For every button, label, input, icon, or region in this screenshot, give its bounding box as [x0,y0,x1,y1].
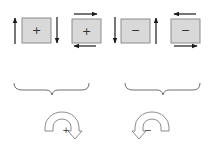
brace-negative-icon [125,83,200,95]
minus-sign-label: − [144,125,152,135]
minus-sign-label: − [181,24,190,37]
plus-sign-label: + [32,24,41,37]
clockwise-rotation-arrow-icon: + [45,112,82,139]
counterclockwise-rotation-arrow-icon: − [132,112,169,139]
element-box-positive-horizontal: + [72,14,101,46]
shear-sign-convention-diagram: + + − − + − [0,0,213,150]
minus-sign-label: − [131,24,140,37]
element-box-negative-horizontal: − [171,14,200,46]
plus-sign-label: + [62,125,70,135]
element-box-negative-vertical: − [115,17,156,44]
plus-sign-label: + [82,25,91,38]
element-box-positive-vertical: + [15,17,57,44]
brace-positive-icon [14,83,89,95]
